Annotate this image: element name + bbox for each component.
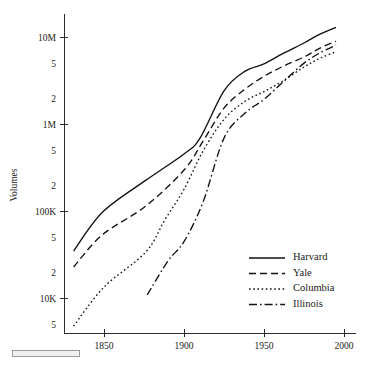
x-axis-tick-label: 1850 [95,341,114,351]
scale-bar [12,350,80,357]
series-line-yale [74,41,336,267]
chart-series [74,27,336,326]
legend-label-columbia: Columbia [293,282,335,293]
y-axis-tick-label: 2 [51,94,56,104]
y-axis-tick-label: 1M [43,120,57,130]
y-axis-tick-label: 10M [38,33,57,43]
x-axis-tick-label: 1900 [175,341,194,351]
x-axis-tick-label: 1950 [255,341,274,351]
y-axis-tick-label: 5 [51,146,56,156]
y-axis-tick-label: 100K [35,207,56,217]
y-axis-tick-label: 5 [51,320,56,330]
legend-label-harvard: Harvard [293,251,328,262]
y-axis-tick-label: 5 [51,59,56,69]
legend-label-illinois: Illinois [293,298,323,309]
y-axis-tick-label: 2 [51,181,56,191]
x-axis-tick-label: 2000 [335,341,354,351]
y-axis-title: Volumes [9,168,19,201]
chart-legend: HarvardYaleColumbiaIllinois [249,251,335,309]
chart-figure: 510K25100K251M2510M1850190019502000 Harv… [0,0,367,367]
y-axis-tick-label: 10K [40,294,57,304]
y-axis-tick-label: 5 [51,233,56,243]
legend-label-yale: Yale [293,267,312,278]
line-chart: 510K25100K251M2510M1850190019502000 Harv… [0,0,367,367]
y-axis-tick-label: 2 [51,268,56,278]
